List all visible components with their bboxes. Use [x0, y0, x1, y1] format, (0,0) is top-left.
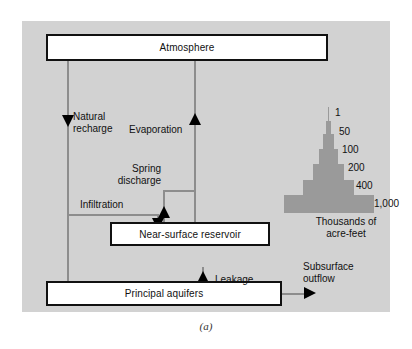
line-natural-recharge: [67, 61, 69, 306]
flow-label-natural-recharge: Natural recharge: [73, 111, 112, 134]
pyramid-label-200: 200: [348, 162, 365, 173]
pyramid-label-1000: 1,000: [374, 198, 399, 209]
figure-caption: (a): [0, 320, 412, 332]
flow-label-infiltration: Infiltration: [80, 199, 123, 211]
box-near-surface-reservoir[interactable]: Near-surface reservoir: [110, 222, 270, 246]
line-evaporation: [194, 61, 196, 243]
flow-label-leakage: Leakage: [215, 274, 253, 286]
diagram-panel: 1 50 100 200 400 1,000 Thousands of acre…: [22, 21, 390, 312]
line-subsurface-outflow: [282, 293, 306, 295]
pyramid-label-400: 400: [356, 180, 373, 191]
box-atmosphere[interactable]: Atmosphere: [46, 34, 328, 61]
flow-label-spring-discharge: Spring discharge: [101, 163, 161, 186]
box-aquifers-label: Principal aquifers: [125, 288, 204, 299]
pyramid-caption: Thousands of acre-feet: [284, 216, 408, 239]
line-infiltration-horizontal: [67, 214, 159, 216]
pyramid-chart: 1 50 100 200 400 1,000 Thousands of acre…: [284, 107, 408, 241]
pyramid-label-50: 50: [339, 126, 350, 137]
pyramid-bar-400: [303, 180, 354, 196]
arrowhead-evaporation: [189, 113, 201, 125]
pyramid-bar-50: [323, 134, 334, 150]
pyramid-label-1: 1: [335, 107, 341, 118]
flow-label-subsurface-outflow: Subsurface outflow: [303, 261, 354, 284]
box-reservoir-label: Near-surface reservoir: [139, 229, 241, 240]
flow-label-evaporation: Evaporation: [129, 124, 182, 136]
pyramid-bar-100: [319, 149, 338, 165]
box-atmosphere-label: Atmosphere: [160, 42, 215, 53]
pyramid-bar-1000: [284, 195, 374, 213]
pyramid-label-100: 100: [342, 144, 359, 155]
pyramid-bar-200: [313, 164, 344, 181]
line-spring-discharge-horizontal: [163, 190, 195, 192]
arrowhead-subsurface-outflow: [304, 287, 316, 299]
figure-root: 1 50 100 200 400 1,000 Thousands of acre…: [0, 0, 412, 349]
pyramid-bar-1: [326, 121, 331, 135]
arrowhead-spring-discharge: [158, 206, 170, 218]
